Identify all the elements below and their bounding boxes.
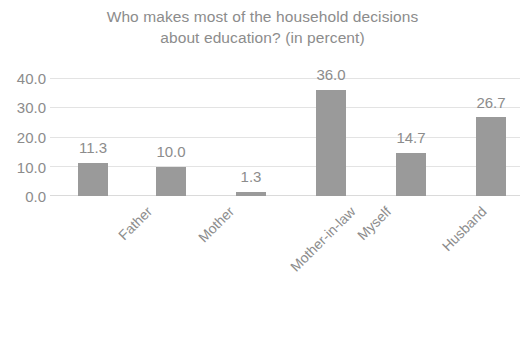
- y-axis: 40.0 30.0 20.0 10.0 0.0: [0, 68, 46, 208]
- value-label-mother: 10.0: [156, 144, 185, 159]
- x-label-mother: Mother: [196, 204, 237, 245]
- gridline-30: [50, 107, 520, 108]
- chart-title-line-1: Who makes most of the household decision…: [0, 6, 525, 27]
- bar-father[interactable]: [78, 163, 108, 196]
- y-tick-label-30: 30.0: [0, 100, 46, 115]
- y-tick-label-20: 20.0: [0, 130, 46, 145]
- value-label-both-husband-myself: 26.7: [476, 95, 505, 110]
- bar-myself[interactable]: [316, 90, 346, 196]
- chart-title-line-2: about education? (in percent): [0, 27, 525, 48]
- value-label-mother-in-law: 1.3: [241, 169, 262, 184]
- x-axis-labels: Father Mother Mother-in-law Myself Husba…: [50, 198, 520, 338]
- x-label-husband: Husband: [439, 204, 489, 254]
- bar-chart: Who makes most of the household decision…: [0, 0, 525, 338]
- gridline-10: [50, 166, 520, 167]
- x-label-mother-in-law: Mother-in-law: [288, 204, 359, 275]
- y-tick-label-0: 0.0: [0, 189, 46, 204]
- value-label-husband: 14.7: [396, 130, 425, 145]
- bar-both-husband-myself[interactable]: [476, 117, 506, 196]
- y-tick-label-40: 40.0: [0, 71, 46, 86]
- gridline-40: [50, 78, 520, 79]
- y-tick-label-10: 10.0: [0, 160, 46, 175]
- x-axis-baseline: [50, 195, 520, 196]
- x-label-father: Father: [116, 204, 155, 243]
- bar-husband[interactable]: [396, 153, 426, 196]
- bar-mother-in-law[interactable]: [236, 192, 266, 196]
- chart-title: Who makes most of the household decision…: [0, 6, 525, 48]
- bar-mother[interactable]: [156, 167, 186, 197]
- gridline-20: [50, 137, 520, 138]
- value-label-father: 11.3: [79, 140, 107, 155]
- x-label-myself: Myself: [355, 204, 394, 243]
- value-label-myself: 36.0: [316, 67, 345, 82]
- plot-area: 11.3 10.0 1.3 36.0 14.7 26.7: [50, 78, 520, 196]
